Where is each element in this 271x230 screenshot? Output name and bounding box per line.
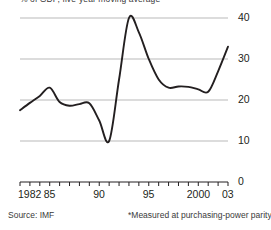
x-axis-label: 2000 — [187, 188, 210, 200]
x-axis-ticks-group — [20, 182, 228, 186]
x-axis-label: 1982 — [18, 188, 41, 200]
x-axis-label: 90 — [93, 188, 105, 200]
x-axis-label: 95 — [143, 188, 155, 200]
footnote: *Measured at purchasing-power parity — [128, 210, 271, 220]
y-axis-label: 10 — [238, 134, 250, 146]
y-axis-label: 30 — [238, 52, 250, 64]
y-axis-label: 40 — [238, 11, 250, 23]
gridlines-group — [20, 18, 228, 141]
y-axis-label: 0 — [238, 175, 244, 187]
x-axis-label: 85 — [44, 188, 56, 200]
source-note: Source: IMF — [8, 210, 54, 220]
x-axis-label: 03 — [222, 188, 234, 200]
chart-container: % of GDP, five-year moving average 01020… — [0, 0, 271, 230]
data-series-line — [20, 16, 228, 143]
y-axis-label: 20 — [238, 93, 250, 105]
